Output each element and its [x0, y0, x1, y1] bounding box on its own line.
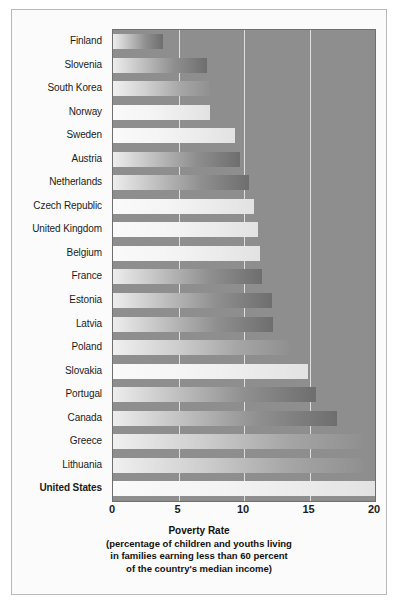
category-label-latvia: Latvia [12, 312, 107, 336]
poverty-rate-bar-chart: FinlandSloveniaSouth KoreaNorwaySwedenAu… [12, 10, 386, 594]
category-label-south-korea: South Korea [12, 76, 107, 100]
bar-czech-republic [113, 199, 254, 214]
bar-row [113, 242, 375, 266]
xtick-20: 20 [368, 503, 380, 515]
xtick-15: 15 [302, 503, 314, 515]
bar-row [113, 477, 375, 501]
category-label-canada: Canada [12, 406, 107, 430]
category-label-united-states: United States [12, 476, 107, 500]
xtick-5: 5 [174, 503, 180, 515]
bar-row [113, 195, 375, 219]
category-label-slovakia: Slovakia [12, 359, 107, 383]
bar-row [113, 218, 375, 242]
bar-row [113, 101, 375, 125]
bar-row [113, 124, 375, 148]
bar-row [113, 77, 375, 101]
category-label-belgium: Belgium [12, 241, 107, 265]
bar-lithuania [113, 458, 363, 473]
bar-row [113, 360, 375, 384]
category-label-portugal: Portugal [12, 382, 107, 406]
category-label-norway: Norway [12, 100, 107, 124]
bar-sweden [113, 128, 235, 143]
bar-row [113, 383, 375, 407]
category-label-finland: Finland [12, 29, 107, 53]
bar-row [113, 148, 375, 172]
bar-netherlands [113, 175, 249, 190]
category-label-poland: Poland [12, 335, 107, 359]
plot-area [112, 29, 376, 502]
category-label-lithuania: Lithuania [12, 453, 107, 477]
bar-slovakia [113, 364, 308, 379]
figure-frame: FinlandSloveniaSouth KoreaNorwaySwedenAu… [11, 9, 387, 595]
axis-title: Poverty Rate [28, 525, 370, 538]
bar-south-korea [113, 81, 210, 96]
bar-finland [113, 34, 163, 49]
bar-row [113, 289, 375, 313]
bar-france [113, 269, 262, 284]
bar-estonia [113, 293, 272, 308]
category-label-slovenia: Slovenia [12, 53, 107, 77]
bar-united-kingdom [113, 222, 258, 237]
xtick-10: 10 [237, 503, 249, 515]
bar-poland [113, 340, 289, 355]
value-axis-ticks: 05101520 [112, 503, 374, 519]
axis-subtitle-line-2: in families earning less than 60 percent [28, 550, 370, 563]
category-label-czech-republic: Czech Republic [12, 194, 107, 218]
bar-slovenia [113, 58, 207, 73]
bar-row [113, 430, 375, 454]
bars-container [113, 30, 375, 501]
bar-portugal [113, 387, 316, 402]
bar-row [113, 336, 375, 360]
axis-subtitle-line-3: of the country's median income) [28, 563, 370, 576]
xtick-0: 0 [109, 503, 115, 515]
category-axis-labels: FinlandSloveniaSouth KoreaNorwaySwedenAu… [12, 29, 107, 500]
category-label-sweden: Sweden [12, 123, 107, 147]
axis-caption: Poverty Rate (percentage of children and… [28, 525, 370, 575]
category-label-estonia: Estonia [12, 288, 107, 312]
bar-row [113, 454, 375, 478]
category-label-austria: Austria [12, 147, 107, 171]
bar-row [113, 30, 375, 54]
bar-norway [113, 105, 210, 120]
category-label-netherlands: Netherlands [12, 170, 107, 194]
bar-austria [113, 152, 240, 167]
bar-row [113, 265, 375, 289]
bar-canada [113, 411, 337, 426]
category-label-france: France [12, 264, 107, 288]
bar-latvia [113, 317, 273, 332]
bar-row [113, 407, 375, 431]
bar-belgium [113, 246, 260, 261]
bar-row [113, 313, 375, 337]
bar-row [113, 54, 375, 78]
category-label-united-kingdom: United Kingdom [12, 217, 107, 241]
bar-united-states [113, 481, 375, 496]
bar-greece [113, 434, 361, 449]
axis-subtitle-line-1: (percentage of children and youths livin… [28, 538, 370, 551]
category-label-greece: Greece [12, 429, 107, 453]
bar-row [113, 171, 375, 195]
